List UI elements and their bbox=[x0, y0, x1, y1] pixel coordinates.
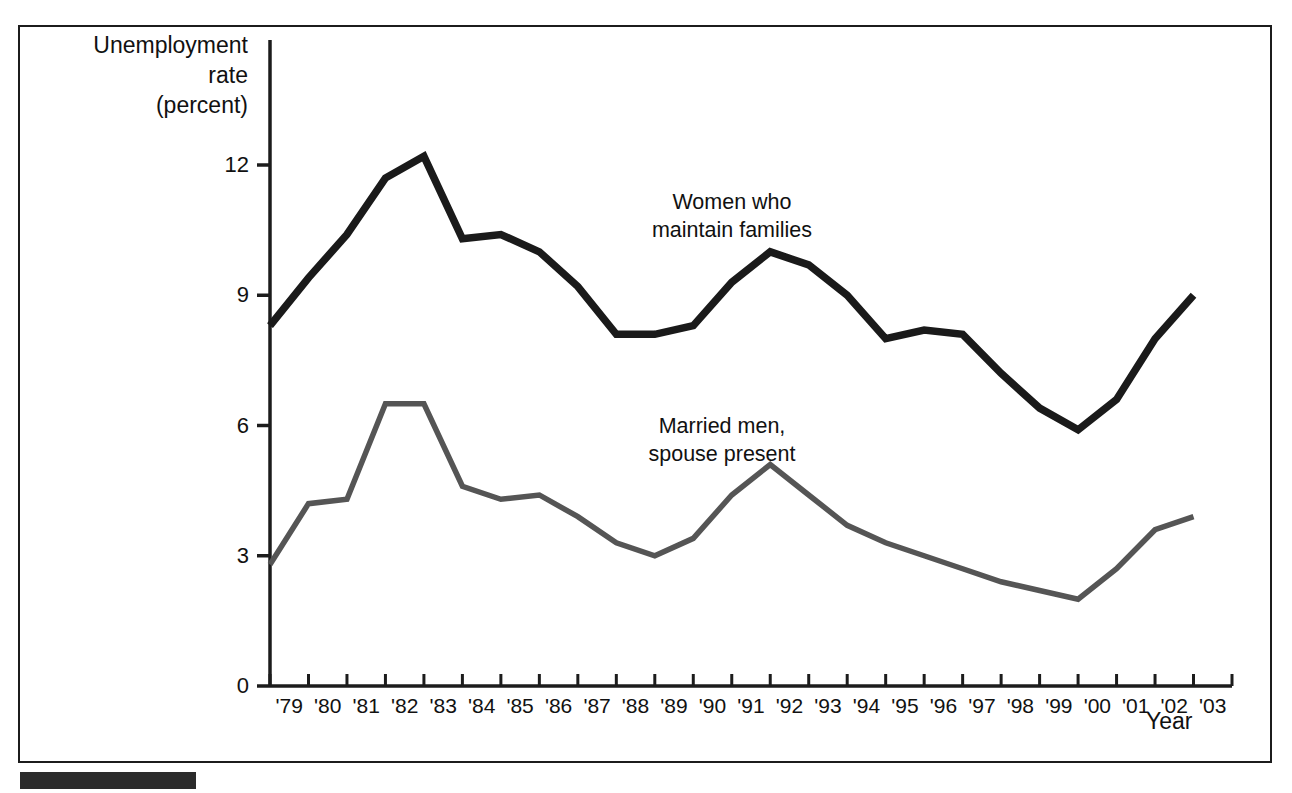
y-tick-label: 0 bbox=[205, 675, 249, 697]
y-tick-label: 9 bbox=[205, 284, 249, 306]
x-tick-marks bbox=[270, 674, 1232, 686]
y-tick-marks bbox=[257, 165, 270, 686]
series-line-married-men-spouse-present bbox=[270, 404, 1194, 599]
series-lines bbox=[270, 156, 1194, 599]
y-tick-label: 3 bbox=[205, 545, 249, 567]
x-tick-label: '03 bbox=[1189, 695, 1237, 716]
series-line-women-who-maintain-families bbox=[270, 156, 1194, 430]
y-tick-label: 12 bbox=[205, 154, 249, 176]
chart-figure: Unemploymentrate(percent) Year Women who… bbox=[0, 0, 1292, 793]
y-tick-label: 6 bbox=[205, 415, 249, 437]
footer-rule-bar bbox=[20, 772, 196, 789]
plot-area bbox=[0, 0, 1292, 793]
